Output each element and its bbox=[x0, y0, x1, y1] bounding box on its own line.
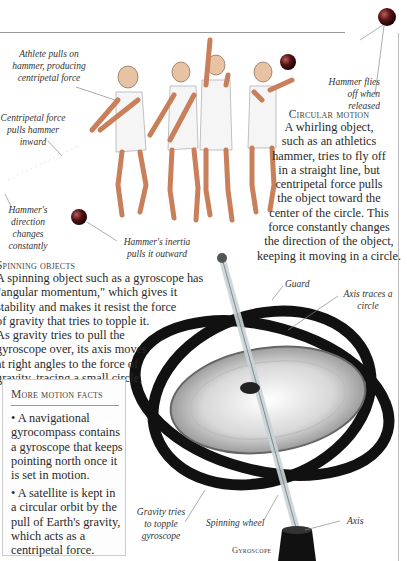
fact-item-gyrocompass: • A navigational gyrocompass contains a … bbox=[11, 411, 123, 482]
label-guard: Guard bbox=[285, 278, 309, 290]
section-spinning-objects: Spinning objects A spinning object such … bbox=[0, 259, 196, 385]
label-spinning-wheel: Spinning wheel bbox=[206, 517, 264, 529]
circular-motion-heading: Circular motion bbox=[254, 108, 404, 120]
spinning-objects-heading: Spinning objects bbox=[0, 259, 196, 271]
fact-item-satellite: • A satellite is kept in a circular orbi… bbox=[11, 486, 123, 557]
section-circular-motion: Circular motion A whirling object, such … bbox=[254, 108, 404, 263]
more-facts-heading: More motion facts bbox=[11, 388, 103, 400]
gyroscope-caption: Gyroscope bbox=[232, 545, 271, 555]
more-facts-divider bbox=[11, 405, 119, 406]
label-flies-off: Hammer flies off when released bbox=[318, 76, 380, 112]
label-axis: Axis bbox=[347, 515, 363, 527]
label-athlete-pulls: Athlete pulls on hammer, producing centr… bbox=[8, 48, 90, 84]
hammer-ball-released bbox=[378, 8, 396, 26]
label-inertia: Hammer's inertia pulls it outward bbox=[118, 236, 196, 260]
label-direction-changes: Hammer's direction changes constantly bbox=[0, 204, 56, 252]
label-centripetal-pulls: Centripetal force pulls hammer inward bbox=[0, 112, 66, 148]
spinning-objects-text: A spinning object such as a gyroscope ha… bbox=[0, 271, 196, 385]
more-motion-facts-box: More motion facts • A navigational gyroc… bbox=[2, 379, 126, 556]
circular-motion-text: A whirling object, such as an athletics … bbox=[254, 120, 404, 263]
label-axis-traces: Axis traces a circle bbox=[340, 288, 396, 312]
label-gravity-topple: Gravity tries to topple gyroscope bbox=[134, 506, 188, 542]
